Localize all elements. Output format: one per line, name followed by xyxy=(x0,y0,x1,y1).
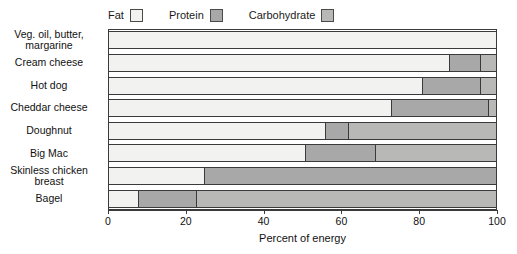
x-tick-label: 60 xyxy=(336,215,348,227)
bar-segment-fat xyxy=(108,99,392,117)
legend-swatch-fat xyxy=(130,9,143,22)
bar-segment-carbohydrate xyxy=(197,190,497,208)
bar-segment-carbohydrate xyxy=(376,144,497,162)
x-tick-mark xyxy=(497,210,498,214)
legend-entry-fat: Fat xyxy=(108,9,143,22)
category-label: Skinless chicken breast xyxy=(0,165,100,188)
bar-segment-fat xyxy=(108,77,423,95)
x-tick-label: 20 xyxy=(180,215,192,227)
bar-row xyxy=(108,54,497,72)
x-tick-mark xyxy=(108,210,109,214)
x-tick-label: 0 xyxy=(105,215,111,227)
category-label: Veg. oil, butter, margarine xyxy=(0,29,100,52)
x-tick-mark xyxy=(419,210,420,214)
bar-row xyxy=(108,122,497,140)
legend-entry-carbohydrate: Carbohydrate xyxy=(249,9,335,22)
bar-segment-protein xyxy=(306,144,376,162)
chart-legend: FatProteinCarbohydrate xyxy=(108,6,334,24)
category-axis-labels: Veg. oil, butter, margarineCream cheeseH… xyxy=(0,29,104,210)
legend-swatch-carbohydrate xyxy=(321,9,334,22)
bar-segment-carbohydrate xyxy=(489,99,497,117)
bar-segment-protein xyxy=(392,99,489,117)
bar-row xyxy=(108,167,497,185)
bar-segment-fat xyxy=(108,31,497,49)
bar-segment-fat xyxy=(108,122,326,140)
bar-segment-carbohydrate xyxy=(481,54,497,72)
category-label: Cream cheese xyxy=(0,57,100,69)
x-tick-label: 100 xyxy=(488,215,506,227)
bar-row xyxy=(108,31,497,49)
bar-segment-fat xyxy=(108,54,450,72)
category-label: Bagel xyxy=(0,193,100,205)
category-label: Big Mac xyxy=(0,148,100,160)
x-tick-label: 80 xyxy=(413,215,425,227)
x-axis-line xyxy=(108,210,497,211)
bar-row xyxy=(108,144,497,162)
bar-segment-fat xyxy=(108,190,139,208)
legend-label: Carbohydrate xyxy=(249,10,316,21)
bar-row xyxy=(108,99,497,117)
x-tick-label: 40 xyxy=(258,215,270,227)
bar-segment-fat xyxy=(108,167,205,185)
x-tick-mark xyxy=(341,210,342,214)
bar-segment-carbohydrate xyxy=(349,122,497,140)
stacked-bar-chart: FatProteinCarbohydrate Veg. oil, butter,… xyxy=(0,0,517,254)
bar-segment-protein xyxy=(423,77,481,95)
bar-segment-protein xyxy=(139,190,197,208)
category-label: Hot dog xyxy=(0,80,100,92)
bar-segment-protein xyxy=(450,54,481,72)
bar-row xyxy=(108,77,497,95)
x-tick-mark xyxy=(264,210,265,214)
bar-segment-carbohydrate xyxy=(481,77,497,95)
legend-label: Fat xyxy=(108,10,124,21)
bar-rows xyxy=(108,29,497,210)
bar-segment-protein xyxy=(205,167,497,185)
x-tick-mark xyxy=(186,210,187,214)
category-label: Doughnut xyxy=(0,125,100,137)
legend-label: Protein xyxy=(169,10,204,21)
legend-swatch-protein xyxy=(210,9,223,22)
bar-segment-protein xyxy=(326,122,349,140)
x-axis-title: Percent of energy xyxy=(108,232,497,244)
legend-entry-protein: Protein xyxy=(169,9,223,22)
bar-row xyxy=(108,190,497,208)
bar-segment-fat xyxy=(108,144,306,162)
category-label: Cheddar cheese xyxy=(0,102,100,114)
